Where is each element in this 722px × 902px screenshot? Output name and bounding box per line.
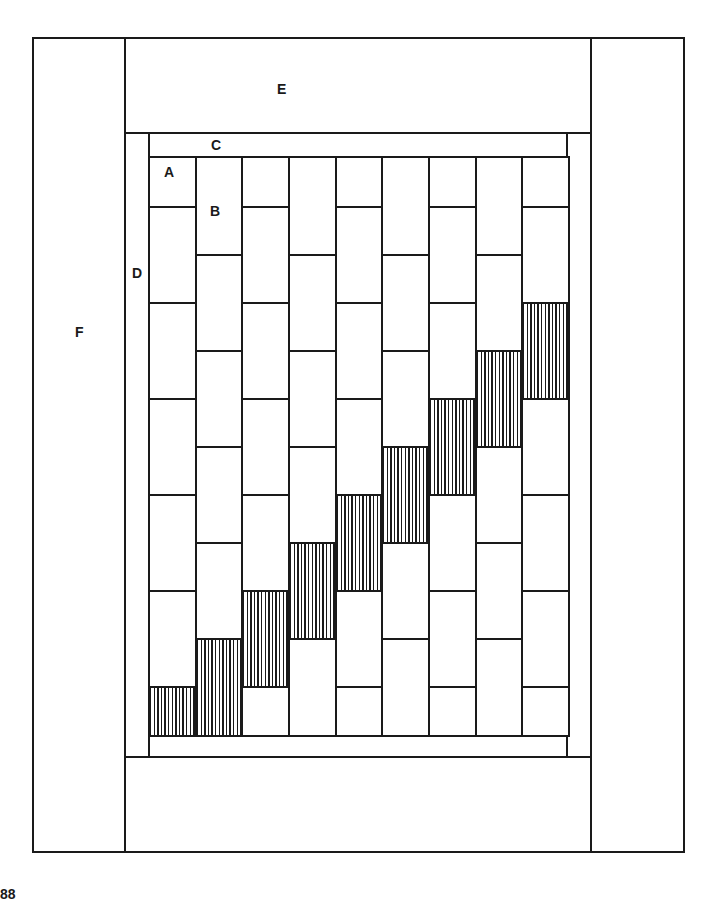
label-a: A: [164, 165, 174, 179]
label-c: C: [211, 138, 221, 152]
label-b: B: [210, 204, 220, 218]
outer-frame: [32, 37, 685, 853]
label-e: E: [277, 82, 286, 96]
page-number-fragment: 88: [0, 886, 16, 902]
label-f: F: [75, 325, 84, 339]
label-d: D: [132, 266, 142, 280]
